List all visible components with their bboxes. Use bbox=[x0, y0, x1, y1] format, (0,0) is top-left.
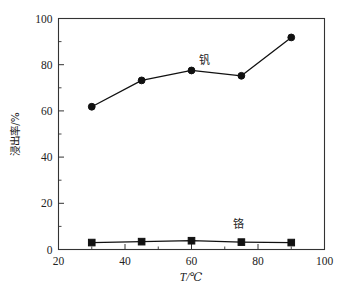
series-label-1: 钒 bbox=[199, 53, 210, 67]
data-point-marker bbox=[188, 237, 195, 244]
data-series-layer bbox=[88, 34, 294, 246]
y-tick-label: 100 bbox=[35, 13, 53, 25]
y-axis-tick-labels: 020406080100 bbox=[35, 13, 53, 256]
data-point-marker bbox=[238, 72, 245, 79]
plot-frame bbox=[59, 19, 325, 250]
data-point-marker bbox=[138, 238, 145, 245]
data-point-marker bbox=[288, 239, 295, 246]
y-tick-label: 20 bbox=[41, 197, 53, 209]
y-tick-label: 80 bbox=[41, 59, 53, 71]
series-annotation-labels: 钒铬 bbox=[199, 53, 243, 231]
x-axis-tick-labels: 20406080100 bbox=[53, 255, 334, 267]
series-1 bbox=[88, 34, 294, 110]
leaching-rate-line-chart: 20406080100 020406080100 钒铬 T/℃ 浸出率/% bbox=[0, 0, 355, 293]
data-point-marker bbox=[88, 103, 95, 110]
chart-figure: 20406080100 020406080100 钒铬 T/℃ 浸出率/% bbox=[0, 0, 355, 293]
x-axis-title: T/℃ bbox=[180, 271, 203, 283]
x-tick-label: 20 bbox=[53, 255, 65, 267]
data-point-marker bbox=[188, 67, 195, 74]
y-tick-label: 60 bbox=[41, 105, 53, 117]
data-point-marker bbox=[238, 239, 245, 246]
x-tick-label: 80 bbox=[252, 255, 264, 267]
data-point-marker bbox=[288, 34, 295, 41]
y-tick-label: 0 bbox=[47, 244, 53, 256]
x-tick-label: 40 bbox=[119, 255, 131, 267]
data-point-marker bbox=[138, 77, 145, 84]
series-label-2: 铬 bbox=[233, 217, 244, 231]
x-axis-major-ticks bbox=[59, 244, 325, 250]
x-tick-label: 60 bbox=[186, 255, 198, 267]
y-axis-title: 浸出率/% bbox=[9, 112, 21, 156]
x-tick-label: 100 bbox=[316, 255, 334, 267]
data-point-marker bbox=[88, 239, 95, 246]
y-tick-label: 40 bbox=[41, 151, 53, 163]
